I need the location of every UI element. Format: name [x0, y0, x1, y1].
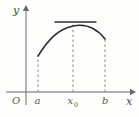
- x-tick-label-b: b: [102, 95, 108, 106]
- x-tick-label-x0-subscript: 0: [74, 101, 78, 109]
- y-axis-arrowhead: [23, 5, 29, 11]
- math-figure-canvas: y x O a x 0 b: [0, 0, 139, 117]
- x-axis-label: x: [126, 95, 133, 108]
- y-axis-label: y: [12, 4, 20, 17]
- x-tick-label-x0: x: [68, 95, 74, 106]
- function-graph-svg: y x O a x 0 b: [0, 0, 139, 117]
- function-curve: [38, 25, 105, 56]
- origin-label: O: [12, 95, 20, 106]
- x-tick-label-a: a: [35, 95, 41, 106]
